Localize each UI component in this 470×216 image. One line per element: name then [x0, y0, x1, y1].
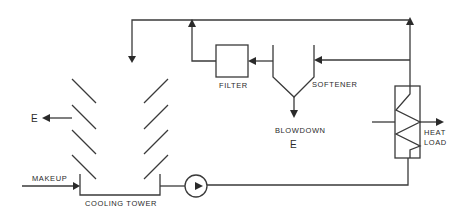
arrow-left-icon [314, 56, 322, 64]
softener-to-filter-line [248, 57, 273, 65]
heat-label: HEAT [424, 128, 446, 137]
makeup-stream: MAKEUP [22, 174, 80, 190]
makeup-label: MAKEUP [32, 174, 67, 183]
cooling-tower: COOLING TOWER [72, 79, 168, 208]
return-line [128, 17, 414, 86]
bottom-loop-line [207, 158, 408, 185]
load-label: LOAD [424, 138, 447, 147]
arrow-left-icon [42, 114, 50, 122]
softener: SOFTENER [273, 45, 358, 118]
cooling-water-flow-diagram: FILTER SOFTENER BLOWDOWN E HEAT LOAD [0, 0, 470, 216]
heat-exchanger: HEAT LOAD [372, 86, 447, 158]
evaporation-label: E [31, 113, 38, 124]
filter-label: FILTER [219, 81, 248, 90]
blowdown-label: BLOWDOWN [275, 126, 326, 135]
evaporation-stream: E [31, 113, 72, 124]
cooling-tower-label: COOLING TOWER [85, 199, 157, 208]
softener-label: SOFTENER [312, 80, 358, 89]
blowdown-e-label: E [290, 139, 297, 150]
filter: FILTER [216, 45, 248, 90]
arrow-down-icon [290, 110, 298, 118]
pump-arrow-icon [195, 182, 203, 190]
pump [160, 175, 207, 197]
filter-branch-line [188, 19, 216, 61]
arrow-right-icon [73, 182, 80, 190]
arrow-right-icon [436, 118, 444, 126]
arrow-up-icon [406, 17, 414, 25]
supply-to-softener-line [314, 56, 410, 64]
arrow-down-icon [128, 56, 136, 63]
arrow-left-icon [248, 57, 256, 65]
